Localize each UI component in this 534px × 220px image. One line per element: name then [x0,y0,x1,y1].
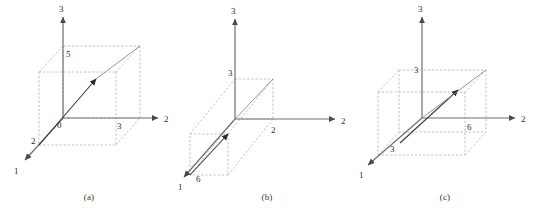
axis-2-value-label: 3 [117,121,122,131]
axis-3-value-label: 3 [414,65,419,75]
axis-2-value-label: 2 [271,125,276,135]
figure-panel-c: 3 2 1 3 6 3 (c) [356,0,534,220]
axis-1-line [184,119,235,177]
axis-1-tip-label: 1 [359,170,364,180]
vector-extension [96,46,140,79]
vector-extension [235,79,273,119]
vector-arrow [190,134,228,175]
axis-2-tip-label: 2 [341,116,346,126]
axis-3-value-label: 5 [66,49,71,59]
axis-1-line [368,118,422,165]
vector-arrow [39,79,96,145]
axes-group [368,17,515,165]
origin-label: 0 [57,120,62,130]
axis-1-tip-label: 1 [14,166,19,176]
axis-2-tip-label: 2 [164,114,169,124]
axes-group [184,19,335,177]
axis-3-tip-label: 3 [231,6,236,16]
axis-3-value-label: 3 [228,68,233,78]
axis-1-tip-label: 1 [178,182,183,192]
box-wireframe [190,79,273,175]
figure-row: 3 2 1 0 5 3 2 (a) [0,0,534,220]
axis-3-tip-label: 3 [59,4,64,14]
vector-extension [422,70,486,118]
axis-1-value-label: 6 [196,174,201,184]
axis-1-value-label: 3 [390,144,395,154]
axis-2-value-label: 6 [467,122,472,132]
figure-panel-a: 3 2 1 0 5 3 2 (a) [0,0,178,220]
panel-caption-c: (c) [356,192,534,202]
panel-caption-b: (b) [178,192,356,202]
axis-1-value-label: 2 [31,136,36,146]
panel-caption-a: (a) [0,192,178,202]
figure-panel-b: 3 2 1 3 2 6 (b) [178,0,356,220]
axis-3-tip-label: 3 [418,4,423,14]
cube-wireframe [39,46,140,145]
axis-2-tip-label: 2 [521,114,526,124]
